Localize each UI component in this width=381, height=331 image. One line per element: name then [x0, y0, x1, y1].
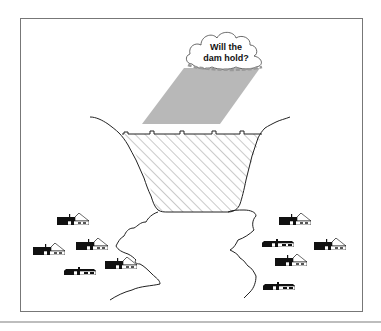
house — [279, 213, 311, 225]
river-right-bank — [228, 210, 256, 298]
dam-diagram: Will the dam hold? — [0, 0, 381, 331]
cloud-text-line2: dam hold? — [203, 53, 249, 63]
house — [64, 267, 96, 275]
houses-right — [262, 213, 346, 290]
house — [263, 282, 295, 290]
house — [262, 239, 294, 247]
rain-shaft — [142, 68, 260, 124]
cloud-text-line1: Will the — [210, 42, 242, 52]
dam-crest — [122, 131, 262, 134]
house — [275, 254, 307, 266]
river-left-bank — [110, 212, 160, 300]
houses-left — [33, 213, 137, 275]
house — [76, 238, 108, 250]
house — [314, 238, 346, 250]
house — [105, 257, 137, 269]
house — [57, 213, 89, 225]
storm-cloud: Will the dam hold? — [186, 32, 262, 70]
house — [33, 243, 65, 255]
